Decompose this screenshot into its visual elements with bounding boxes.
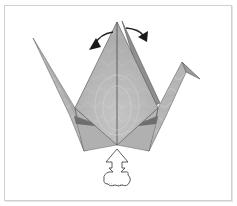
inflate-arrow	[104, 149, 130, 186]
left-wing-tail	[33, 38, 84, 151]
origami-crane-diagram	[0, 0, 237, 206]
right-arrowhead-icon	[138, 31, 148, 42]
left-arrowhead-icon	[89, 38, 101, 50]
